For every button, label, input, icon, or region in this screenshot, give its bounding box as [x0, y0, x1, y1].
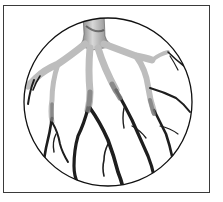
root-system-illustration — [0, 0, 223, 202]
